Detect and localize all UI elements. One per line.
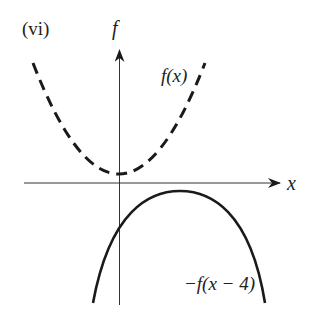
x-axis-label: x xyxy=(286,172,296,194)
panel-label: (vi) xyxy=(22,18,49,40)
y-axis-label: f xyxy=(112,17,120,40)
curve-label-f-x: f(x) xyxy=(161,65,187,87)
curve-label-neg-f-x-minus-4: −f(x − 4) xyxy=(184,273,255,295)
function-graph: (vi) f x f(x) −f(x − 4) xyxy=(0,0,314,315)
